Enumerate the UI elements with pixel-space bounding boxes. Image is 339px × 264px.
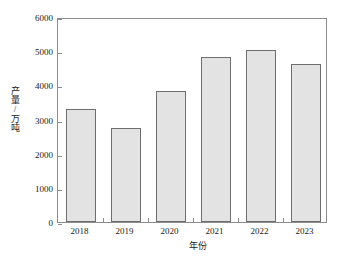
bar[interactable]: [246, 50, 276, 222]
x-axis-tick-mark: [193, 218, 194, 222]
x-axis-tick-label: 2020: [148, 226, 192, 237]
plot-area: [57, 18, 327, 223]
bar-slot: [148, 19, 193, 222]
x-axis-tick-label-group: 201820192020202120222023: [57, 226, 327, 240]
y-axis-tick-label: 0: [20, 218, 53, 228]
x-axis-tick-mark: [238, 218, 239, 222]
bar[interactable]: [111, 128, 141, 222]
y-axis-tick-label: 2000: [20, 150, 53, 160]
bar-series-group: [58, 19, 326, 222]
x-axis-tick-label: 2019: [103, 226, 147, 237]
y-axis-tick-label: 1000: [20, 184, 53, 194]
bar-slot: [103, 19, 148, 222]
bar[interactable]: [201, 57, 231, 222]
x-axis-tick-mark: [283, 218, 284, 222]
bar-chart: 产量/万吨 0100020003000400050006000 20182019…: [0, 0, 339, 264]
x-axis-tick-label: 2021: [193, 226, 237, 237]
bar[interactable]: [156, 91, 186, 222]
bar[interactable]: [66, 109, 96, 222]
y-axis-tick-mark: [58, 224, 62, 225]
y-axis-tick-label: 6000: [20, 13, 53, 23]
bar-slot: [193, 19, 238, 222]
bar-slot: [238, 19, 283, 222]
y-axis-tick-label-group: 0100020003000400050006000: [20, 12, 53, 229]
x-axis-tick-label: 2018: [58, 226, 102, 237]
x-axis-title: 年份: [0, 241, 339, 252]
x-axis-tick-mark: [103, 218, 104, 222]
y-axis-tick-label: 5000: [20, 47, 53, 57]
x-axis-tick-label: 2022: [238, 226, 282, 237]
bar-slot: [283, 19, 328, 222]
bar[interactable]: [291, 64, 321, 222]
x-axis-tick-mark: [148, 218, 149, 222]
y-axis-title: 产量/万吨: [2, 86, 20, 132]
y-axis-tick-label: 4000: [20, 81, 53, 91]
x-axis-tick-label: 2023: [283, 226, 327, 237]
y-axis-tick-label: 3000: [20, 116, 53, 126]
bar-slot: [58, 19, 103, 222]
